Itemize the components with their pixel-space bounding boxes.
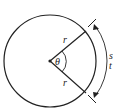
arc-length-arrow [96,27,107,95]
arrowhead-lower-icon [93,92,99,98]
radius-upper-label: r [63,34,67,45]
sector-diagram: r r θ s t [0,0,113,111]
radius-lower-label: r [63,77,67,88]
arrowhead-upper-icon [93,24,99,30]
angle-arc [62,51,66,72]
angle-label: θ [55,56,60,67]
arc-label-part2: t [109,60,112,71]
